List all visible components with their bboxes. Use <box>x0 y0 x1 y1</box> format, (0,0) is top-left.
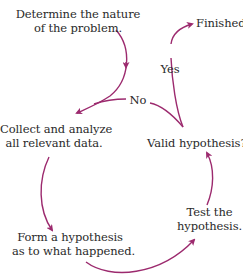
node-valid-line1: Valid hypothesis? <box>147 136 243 150</box>
node-finished: Finished <box>196 16 243 30</box>
node-collect-line2: all relevant data. <box>0 136 108 150</box>
node-form-line2: as to what happened. <box>12 244 128 258</box>
node-test-line2: hypothesis. <box>176 219 243 233</box>
node-valid: Valid hypothesis? <box>147 136 243 150</box>
arrow-yes-to-finished <box>171 24 192 44</box>
arrow-valid-to-no <box>150 103 183 127</box>
node-form-line1: Form a hypothesis <box>12 230 128 244</box>
edge-label-no: No <box>127 93 149 107</box>
node-determine-line2: of the problem. <box>12 21 144 35</box>
arrow-determine-to-collect <box>77 30 127 113</box>
node-form: Form a hypothesis as to what happened. <box>12 230 128 258</box>
arrow-no-branch <box>94 99 126 104</box>
node-collect-line1: Collect and analyze <box>0 122 108 136</box>
node-test-line1: Test the <box>176 205 243 219</box>
node-collect: Collect and analyze all relevant data. <box>0 122 108 150</box>
node-determine: Determine the nature of the problem. <box>12 7 144 35</box>
edge-label-yes: Yes <box>158 62 182 76</box>
arrow-test-to-valid <box>207 153 213 205</box>
diagram-canvas: Determine the nature of the problem. Fin… <box>0 0 243 277</box>
arrow-collect-to-form <box>41 157 52 230</box>
node-finished-line1: Finished <box>196 16 243 30</box>
node-test: Test the hypothesis. <box>176 205 243 233</box>
node-determine-line1: Determine the nature <box>12 7 144 21</box>
